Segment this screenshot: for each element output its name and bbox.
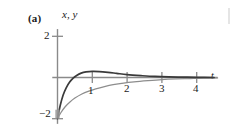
x-tick-label-4: 4 xyxy=(193,82,199,94)
x-tick-label-1: 1 xyxy=(88,84,94,96)
page-edge-artifact xyxy=(228,8,230,24)
figure-panel: (a) x, y t 2 −2 1 2 3 4 xyxy=(0,0,230,133)
y-tick-label-minus2: −2 xyxy=(39,107,51,119)
x-tick-label-3: 3 xyxy=(159,82,165,94)
y-tick-label-2: 2 xyxy=(44,29,50,41)
curve-start-marker xyxy=(55,110,59,119)
x-tick-label-2: 2 xyxy=(124,82,130,94)
plot-canvas xyxy=(0,0,230,133)
